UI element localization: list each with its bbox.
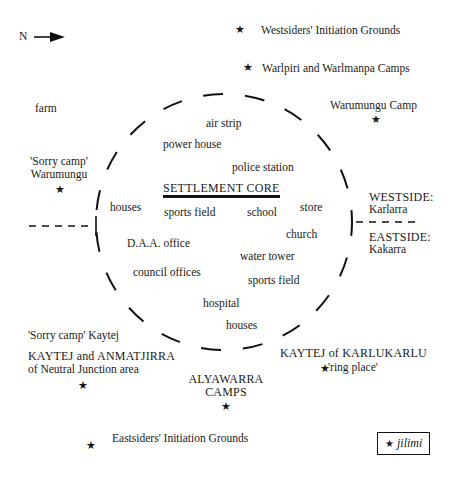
legend-jilimi-label: jilimi xyxy=(397,436,422,450)
star-icon: ★ xyxy=(221,401,231,412)
police-station-label: police station xyxy=(232,161,294,174)
star-icon: ★ xyxy=(371,114,381,125)
neutral-junction-label: of Neutral Junction area xyxy=(28,363,139,376)
sorry-camp-kaytej-label: 'Sorry camp' Kaytej xyxy=(28,329,119,342)
hospital-label: hospital xyxy=(203,297,239,310)
ring-place-label: 'ring place' xyxy=(328,361,378,374)
warlpiri-camps-label: Warlpiri and Warlmanpa Camps xyxy=(262,62,410,75)
water-tower-label: water tower xyxy=(240,250,295,263)
council-offices-label: council offices xyxy=(133,266,201,279)
north-arrow-icon xyxy=(34,32,65,42)
alyawarra-camps-label: CAMPS xyxy=(180,386,272,399)
store-label: store xyxy=(300,201,322,214)
farm-label: farm xyxy=(35,102,57,115)
star-icon: ★ xyxy=(78,380,88,391)
settlement-map: N ★ Westsiders' Initiation Grounds ★ War… xyxy=(0,0,462,478)
air-strip-label: air strip xyxy=(206,117,241,130)
star-icon: ★ xyxy=(243,62,253,73)
eastside-kakarra-label: Kakarra xyxy=(369,243,406,256)
houses-west-label: houses xyxy=(110,201,141,214)
star-icon: ★ xyxy=(55,184,65,195)
legend-box: ★ jilimi xyxy=(377,432,430,455)
eastsiders-initiation-label: Eastsiders' Initiation Grounds xyxy=(112,432,248,445)
houses-south-label: houses xyxy=(226,319,257,332)
sorry-camp-warumungu-label-1: 'Sorry camp' xyxy=(24,155,94,168)
westsiders-initiation-label: Westsiders' Initiation Grounds xyxy=(261,24,400,37)
kaytej-anmatjirra-label: KAYTEJ and ANMATJIRRA xyxy=(28,350,175,363)
star-icon: ★ xyxy=(86,440,96,451)
settlement-boundary-circle xyxy=(96,94,352,350)
warumungu-camp-label: Warumungu Camp xyxy=(330,99,417,112)
daa-office-label: D.A.A. office xyxy=(127,237,190,250)
kaytej-karlukarlu-label: KAYTEJ of KARLUKARLU xyxy=(280,347,427,360)
sports-field-2-label: sports field xyxy=(248,274,299,287)
star-icon: ★ xyxy=(385,438,394,449)
star-icon: ★ xyxy=(235,24,245,35)
power-house-label: power house xyxy=(163,138,221,151)
westside-karlarra-label: Karlarra xyxy=(369,203,407,216)
church-label: church xyxy=(286,228,317,241)
sorry-camp-warumungu-label-2: Warumungu xyxy=(24,168,94,181)
compass-north-label: N xyxy=(19,30,27,43)
school-label: school xyxy=(247,206,277,219)
settlement-core-title: SETTLEMENT CORE xyxy=(163,182,280,198)
sports-field-1-label: sports field xyxy=(164,206,215,219)
